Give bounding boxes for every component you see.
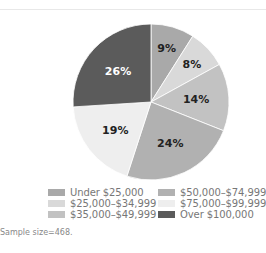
- legend-swatch: [158, 189, 175, 196]
- slice-percent-label: 14%: [183, 93, 209, 106]
- legend-label: $50,000–$74,999: [180, 187, 266, 198]
- slice-percent-label: 19%: [102, 124, 128, 137]
- legend-item-50k-75k: $50,000–$74,999: [158, 187, 266, 198]
- legend-swatch: [158, 200, 175, 207]
- legend-label: $75,000–$99,999: [180, 198, 266, 209]
- legend-item-under-25k: Under $25,000: [48, 187, 144, 198]
- legend-swatch: [158, 211, 175, 218]
- legend-item-over-100k: Over $100,000: [158, 209, 254, 220]
- legend-swatch: [48, 189, 65, 196]
- legend-item-35k-50k: $35,000–$49,999: [48, 209, 156, 220]
- legend-label: Over $100,000: [180, 209, 254, 220]
- legend-swatch: [48, 200, 65, 207]
- slice-percent-label: 8%: [183, 58, 202, 71]
- slice-percent-label: 24%: [157, 137, 183, 150]
- legend-label: $35,000–$49,999: [70, 209, 156, 220]
- sample-size-caption: Sample size=468.: [0, 228, 73, 237]
- slice-percent-label: 26%: [105, 65, 131, 78]
- legend-label: Under $25,000: [70, 187, 144, 198]
- slice-percent-label: 9%: [157, 42, 176, 55]
- pie-chart: 9%8%14%24%19%26%: [0, 0, 266, 200]
- legend-item-25k-35k: $25,000–$34,999: [48, 198, 156, 209]
- legend-item-75k-100k: $75,000–$99,999: [158, 198, 266, 209]
- legend-swatch: [48, 211, 65, 218]
- legend-label: $25,000–$34,999: [70, 198, 156, 209]
